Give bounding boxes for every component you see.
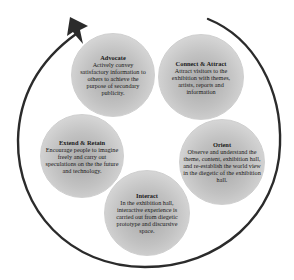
- stage-description: Observe and understand the theme, conten…: [182, 148, 262, 183]
- visitor-engagement-cycle-diagram: Advocate Actively convey satisfactory in…: [0, 0, 294, 280]
- stage-extend-retain: Extend & Retain Encourage people to imag…: [40, 114, 124, 198]
- stage-connect-attract: Connect & Attract Attract visitors to th…: [158, 34, 244, 120]
- stage-title: Extend & Retain: [59, 139, 105, 146]
- stage-interact: Interact In the exhibition hall, interac…: [104, 170, 190, 256]
- stage-title: Orient: [213, 141, 231, 148]
- stage-description: Actively convey satisfactory information…: [80, 61, 146, 96]
- stage-orient: Orient Observe and understand the theme,…: [179, 119, 265, 205]
- stage-description: Encourage people to imagine freely and c…: [45, 146, 119, 174]
- stage-description: In the exhibition hall, interactive expe…: [111, 199, 183, 234]
- stage-advocate: Advocate Actively convey satisfactory in…: [71, 33, 155, 117]
- stage-title: Interact: [136, 192, 158, 199]
- stage-title: Connect & Attract: [176, 60, 227, 67]
- stage-description: Attract visitors to the exhibition with …: [166, 67, 236, 95]
- stage-title: Advocate: [100, 54, 126, 61]
